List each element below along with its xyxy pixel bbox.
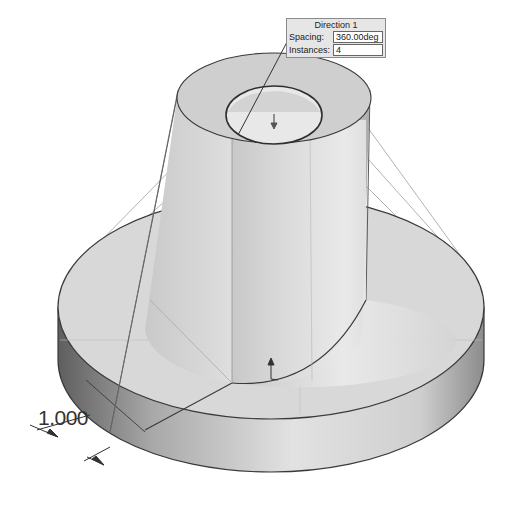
instances-label: Instances:: [289, 45, 333, 56]
graphics-viewport[interactable]: Direction 1 Spacing: 360.00deg Instances…: [0, 0, 523, 529]
spacing-row: Spacing: 360.00deg: [287, 31, 385, 44]
instances-row: Instances: 4: [287, 44, 385, 57]
callout-title: Direction 1: [287, 19, 385, 31]
dimension-value[interactable]: 1.000: [38, 406, 88, 430]
model-view[interactable]: [0, 0, 523, 529]
spacing-field[interactable]: 360.00deg: [333, 31, 383, 43]
spacing-label: Spacing:: [289, 32, 333, 43]
instances-field[interactable]: 4: [333, 44, 383, 56]
pattern-callout: Direction 1 Spacing: 360.00deg Instances…: [286, 18, 386, 58]
